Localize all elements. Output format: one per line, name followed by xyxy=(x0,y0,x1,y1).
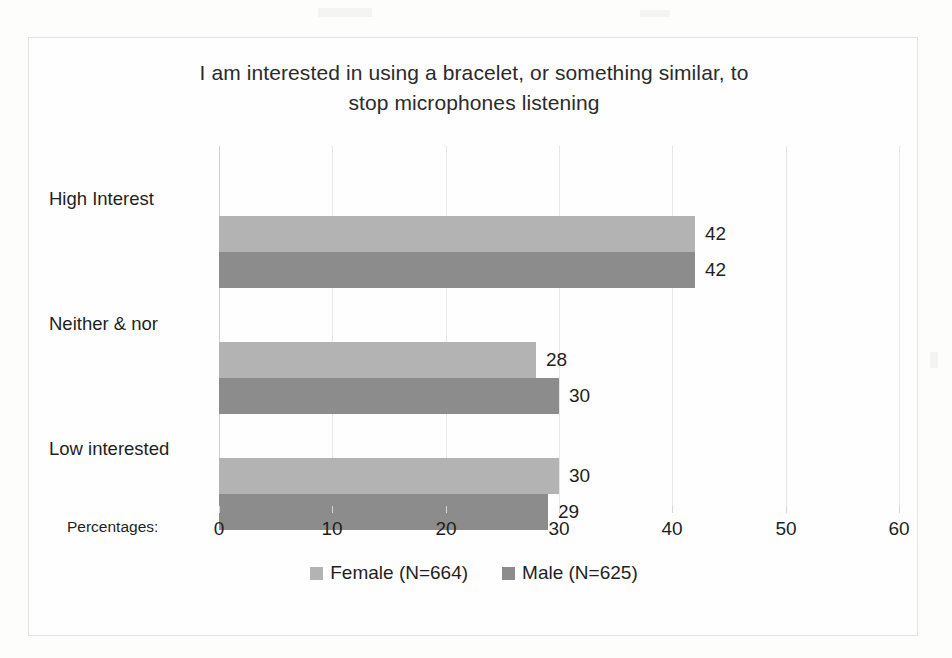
x-tick-label-20: 20 xyxy=(435,518,456,540)
chart-legend: Female (N=664) Male (N=625) xyxy=(29,562,919,584)
x-axis-title: Percentages: xyxy=(67,518,158,536)
bar-male-high-interest[interactable] xyxy=(219,252,695,288)
legend-swatch-male-icon xyxy=(502,567,515,580)
bar-row-female-low-interested: 30 xyxy=(219,458,899,494)
bar-row-male-high-interest: 42 xyxy=(219,252,899,288)
legend-item-female[interactable]: Female (N=664) xyxy=(310,562,468,584)
chart-title: I am interested in using a bracelet, or … xyxy=(89,58,859,118)
bar-group-neither-nor: 28 30 xyxy=(219,342,899,414)
bar-female-low-interested[interactable] xyxy=(219,458,559,494)
gridline-30 xyxy=(559,146,560,506)
chart-title-line-1: I am interested in using a bracelet, or … xyxy=(89,58,859,88)
y-axis-category-labels: High Interest Neither & nor Low interest… xyxy=(67,146,219,506)
x-tickmark-10 xyxy=(332,506,333,513)
gridline-50 xyxy=(786,146,787,506)
bar-value-female-low-interested: 30 xyxy=(569,465,590,487)
legend-label-female: Female (N=664) xyxy=(330,562,468,584)
scan-smudge xyxy=(640,10,670,17)
bar-female-neither-nor[interactable] xyxy=(219,342,536,378)
y-axis-label-neither-nor: Neither & nor xyxy=(49,313,219,335)
legend-item-male[interactable]: Male (N=625) xyxy=(502,562,638,584)
y-axis-label-low-interested: Low interested xyxy=(49,438,219,460)
x-axis: 0 10 20 30 40 50 60 xyxy=(219,506,899,546)
bar-row-female-high-interest: 42 xyxy=(219,216,899,252)
x-tickmark-40 xyxy=(672,506,673,513)
x-tickmark-30 xyxy=(559,506,560,513)
x-tickmark-20 xyxy=(446,506,447,513)
bar-female-high-interest[interactable] xyxy=(219,216,695,252)
scan-smudge xyxy=(930,352,938,368)
gridline-0 xyxy=(219,146,220,506)
chart-container: I am interested in using a bracelet, or … xyxy=(28,37,918,636)
legend-label-male: Male (N=625) xyxy=(522,562,638,584)
bar-value-male-neither-nor: 30 xyxy=(569,385,590,407)
x-tick-label-10: 10 xyxy=(321,518,342,540)
bar-male-neither-nor[interactable] xyxy=(219,378,559,414)
gridline-10 xyxy=(332,146,333,506)
page-background: I am interested in using a bracelet, or … xyxy=(0,0,952,658)
gridline-20 xyxy=(446,146,447,506)
bar-group-high-interest: 42 42 xyxy=(219,216,899,288)
bar-value-female-neither-nor: 28 xyxy=(546,349,567,371)
gridline-40 xyxy=(672,146,673,506)
x-tickmark-50 xyxy=(786,506,787,513)
x-tick-label-0: 0 xyxy=(214,518,225,540)
x-tickmark-0 xyxy=(219,506,220,513)
bar-value-female-high-interest: 42 xyxy=(705,223,726,245)
plot-area: 42 42 28 30 xyxy=(219,146,899,506)
legend-swatch-female-icon xyxy=(310,567,323,580)
bar-row-female-neither-nor: 28 xyxy=(219,342,899,378)
y-axis-label-high-interest: High Interest xyxy=(49,188,219,210)
x-tick-label-40: 40 xyxy=(661,518,682,540)
bar-row-male-neither-nor: 30 xyxy=(219,378,899,414)
bar-value-male-high-interest: 42 xyxy=(705,259,726,281)
x-tick-label-50: 50 xyxy=(775,518,796,540)
x-tickmark-60 xyxy=(899,506,900,513)
x-tick-label-30: 30 xyxy=(548,518,569,540)
x-tick-label-60: 60 xyxy=(888,518,909,540)
scan-smudge xyxy=(318,8,372,17)
chart-title-line-2: stop microphones listening xyxy=(89,88,859,118)
gridline-60 xyxy=(899,146,900,506)
